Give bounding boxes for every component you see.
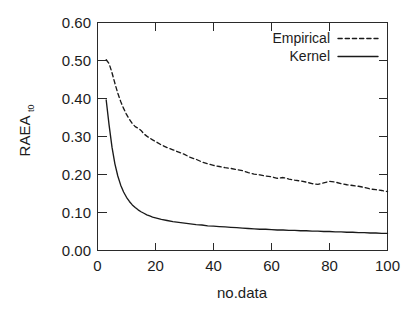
y-tick-label-0.30: 0.30 xyxy=(62,128,91,145)
y-tick-label-0.40: 0.40 xyxy=(62,90,91,107)
x-tick-label-20: 20 xyxy=(147,257,164,274)
y-axis-title-subscript: t0 xyxy=(26,104,36,112)
y-tick-label-0.20: 0.20 xyxy=(62,166,91,183)
y-tick-label-0.10: 0.10 xyxy=(62,204,91,221)
x-tick-label-40: 40 xyxy=(205,257,222,274)
chart-figure: 0.60 0.50 0.40 0.30 0.20 0.10 0.00 0 20 … xyxy=(0,0,419,317)
chart-svg: 0.60 0.50 0.40 0.30 0.20 0.10 0.00 0 20 … xyxy=(0,0,419,317)
y-tick-label-0.50: 0.50 xyxy=(62,52,91,69)
y-tick-label-0.60: 0.60 xyxy=(62,14,91,31)
x-axis-title: no.data xyxy=(217,284,268,301)
x-tick-label-100: 100 xyxy=(375,257,400,274)
x-tick-label-60: 60 xyxy=(263,257,280,274)
legend-label-empirical: Empirical xyxy=(272,30,330,46)
y-axis-title: RAEA xyxy=(16,116,33,157)
x-tick-label-0: 0 xyxy=(93,257,101,274)
legend-label-kernel: Kernel xyxy=(290,48,330,64)
y-tick-label-0.00: 0.00 xyxy=(62,242,91,259)
x-tick-label-80: 80 xyxy=(321,257,338,274)
